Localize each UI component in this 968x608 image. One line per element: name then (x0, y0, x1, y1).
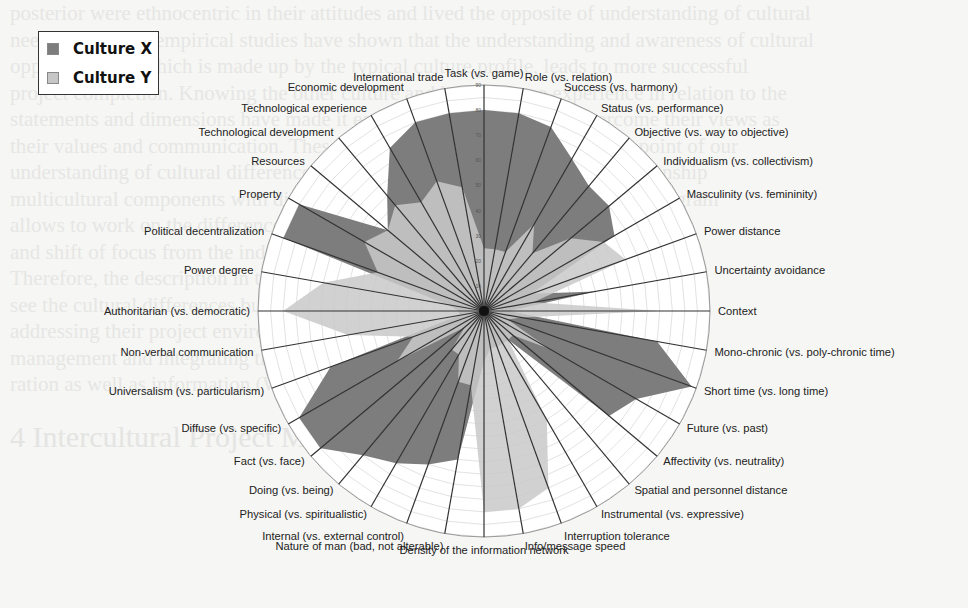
legend-item-culture-y: Culture Y (47, 65, 151, 91)
legend-swatch-culture-x (47, 43, 59, 55)
axis-label: Political decentralization (144, 225, 264, 237)
axis-label: Success (vs. harmony) (564, 81, 678, 93)
axis-label: Context (718, 305, 757, 317)
axis-label: Instrumental (vs. expressive) (601, 508, 744, 520)
axis-label: Property (239, 188, 282, 200)
axis-label: Technological development (199, 126, 335, 138)
axis-label: Power degree (184, 264, 254, 276)
axis-label: Affectivity (vs. neutrality) (663, 455, 784, 467)
axis-label: Status (vs. performance) (601, 102, 724, 114)
axis-label: Authoritarian (vs. democratic) (104, 305, 250, 317)
axis-label: Technological experience (241, 102, 367, 114)
tick-label: 70 (475, 132, 481, 138)
axis-label: Objective (vs. way to objective) (634, 126, 788, 138)
axis-label: Resources (251, 155, 305, 167)
legend-label: Culture X (73, 40, 152, 58)
tick-label: 20 (475, 258, 481, 264)
axis-label: Nature of man (bad, not alterable) (275, 540, 443, 552)
chart-legend: Culture X Culture Y (38, 31, 159, 95)
chart-center (479, 306, 489, 316)
tick-label: 80 (475, 107, 481, 113)
axis-label: Physical (vs. spiritualistic) (240, 508, 368, 520)
tick-label: 90 (475, 82, 481, 88)
axis-label: Power distance (704, 225, 781, 237)
axis-label: Task (vs. game) (445, 67, 524, 79)
axis-label: Individualism (vs. collectivism) (663, 155, 813, 167)
axis-label: Non-verbal communication (120, 346, 253, 358)
tick-label: 60 (475, 157, 481, 163)
axis-label: Masculinity (vs. femininity) (687, 188, 818, 200)
tick-label: 10 (475, 283, 481, 289)
axis-label: Short time (vs. long time) (704, 385, 829, 397)
tick-label: 30 (475, 233, 481, 239)
scale-ticks: 102030405060708090 (475, 82, 481, 289)
tick-label: 50 (475, 182, 481, 188)
tick-label: 40 (475, 208, 481, 214)
axis-label: Doing (vs. being) (249, 484, 334, 496)
legend-label: Culture Y (73, 69, 151, 87)
axis-label: Future (vs. past) (687, 422, 769, 434)
legend-item-culture-x: Culture X (47, 36, 152, 62)
axis-label: Diffuse (vs. specific) (181, 422, 281, 434)
axis-label: Uncertainty avoidance (714, 264, 825, 276)
legend-swatch-culture-y (47, 72, 59, 84)
axis-label: Mono-chronic (vs. poly-chronic time) (714, 346, 895, 358)
axis-label: Fact (vs. face) (234, 455, 305, 467)
axis-label: Universalism (vs. particularism) (109, 385, 265, 397)
axis-label: International trade (353, 71, 443, 83)
axis-label: Spatial and personnel distance (634, 484, 787, 496)
axis-label: Economic development (288, 81, 405, 93)
axis-label: Internal (vs. external control) (262, 530, 404, 542)
